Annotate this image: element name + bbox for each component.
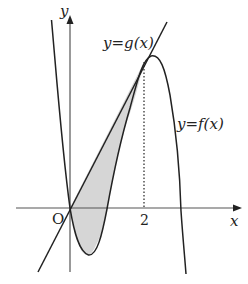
graph-figure: y x O 2 y=g(x) y=f(x) xyxy=(0,0,248,284)
shaded-region xyxy=(70,62,144,255)
curve-f-label: y=f(x) xyxy=(177,117,224,132)
y-axis-label: y xyxy=(60,4,68,19)
x-axis-arrow-icon xyxy=(233,205,242,212)
origin-label: O xyxy=(52,212,64,227)
x-axis-label: x xyxy=(230,214,238,229)
tick-label-2: 2 xyxy=(140,213,149,227)
line-g-label: y=g(x) xyxy=(103,36,154,51)
